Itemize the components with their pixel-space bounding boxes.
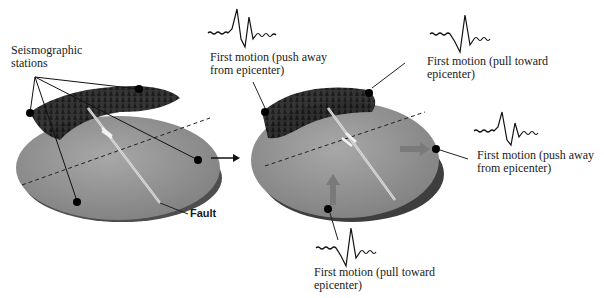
fault-label: Fault <box>190 207 216 219</box>
seismogram-pull-bottom-icon <box>316 228 376 266</box>
annotation-line2: epicenter) <box>427 68 548 81</box>
station-dot <box>194 156 202 164</box>
station-dot <box>324 205 332 213</box>
seismogram-pull-top-right-icon <box>430 15 490 52</box>
left-earth-disk <box>16 77 222 222</box>
annotation-line2: from epicenter) <box>210 64 327 77</box>
annotation-top-right: First motion (pull toward epicenter) <box>427 55 548 81</box>
station-dot <box>365 89 373 97</box>
seismogram-push-top-left-icon <box>208 9 276 47</box>
seismogram-push-right-icon <box>474 112 538 145</box>
station-dot <box>261 108 269 116</box>
station-dot <box>135 85 143 93</box>
station-dot <box>73 198 81 206</box>
annotation-line2: epicenter) <box>314 279 435 292</box>
annotation-right: First motion (push away from epicenter) <box>477 149 594 175</box>
stations-label-line2: stations <box>11 57 82 70</box>
station-dot <box>26 109 34 117</box>
station-dot <box>432 145 440 153</box>
seismographic-stations-label: Seismographic stations <box>11 44 82 70</box>
annotation-bottom: First motion (pull toward epicenter) <box>314 266 435 292</box>
right-earth-disk <box>251 63 468 240</box>
annotation-line2: from epicenter) <box>477 162 594 175</box>
annotation-top-left: First motion (push away from epicenter) <box>210 51 327 77</box>
